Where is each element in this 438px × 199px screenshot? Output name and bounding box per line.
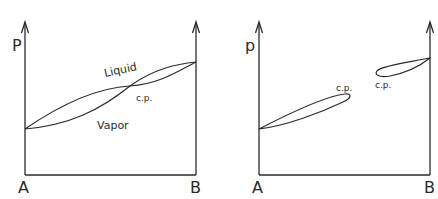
left-panel: P A B Liquid Vapor c.p.: [12, 22, 201, 197]
left-a-label: A: [18, 178, 29, 197]
right-b-label: B: [424, 178, 435, 197]
right-upper-cp-label: c.p.: [375, 80, 391, 90]
right-upper-loop-curve: [376, 58, 430, 77]
right-a-label: A: [252, 178, 263, 197]
left-y-label: P: [12, 36, 22, 55]
right-lower-loop-curve: [259, 94, 350, 129]
left-b-label: B: [190, 178, 201, 197]
vapor-label: Vapor: [97, 119, 129, 132]
right-lower-cp-label: c.p.: [336, 83, 352, 93]
liquid-label: Liquid: [103, 60, 138, 80]
right-panel: p A B c.p. c.p.: [245, 22, 435, 197]
left-cp-label: c.p.: [136, 93, 152, 103]
right-y-label: p: [245, 36, 255, 55]
phase-diagram-figure: P A B Liquid Vapor c.p. p A B c.p. c.p.: [0, 0, 438, 199]
